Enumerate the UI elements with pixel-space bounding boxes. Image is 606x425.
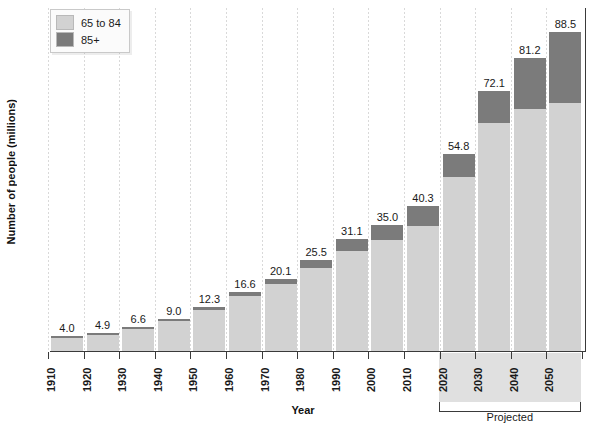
bar-value-label: 40.3 [412, 192, 433, 204]
bar-value-label: 12.3 [199, 293, 220, 305]
x-axis-tick [404, 352, 405, 359]
legend-label: 85+ [81, 34, 100, 46]
x-axis-label-text: 2010 [401, 360, 413, 400]
x-axis-label-text: 2050 [543, 360, 555, 400]
bar-segment-65-to-84 [407, 226, 439, 352]
bar-segment-85-plus [336, 239, 368, 250]
x-axis-tick [155, 352, 156, 359]
bar-value-label: 35.0 [377, 211, 398, 223]
x-axis-label-text: 1920 [81, 360, 93, 400]
gridline [546, 8, 547, 352]
bar-segment-85-plus [371, 225, 403, 240]
bar-group[interactable]: 35.0 [371, 225, 403, 352]
bar-group[interactable]: 81.2 [514, 58, 546, 352]
x-axis-tick [48, 352, 49, 359]
x-axis-label-text: 1940 [152, 360, 164, 400]
bar-segment-65-to-84 [122, 329, 154, 352]
bar-value-label: 25.5 [305, 246, 326, 258]
bar-value-label: 20.1 [270, 265, 291, 277]
bar-segment-65-to-84 [51, 338, 83, 352]
x-axis-tick [262, 352, 263, 359]
gridline [404, 8, 405, 352]
x-axis-tick [226, 352, 227, 359]
legend-item[interactable]: 65 to 84 [56, 14, 121, 31]
bar-value-label: 31.1 [341, 225, 362, 237]
x-axis-tick [190, 352, 191, 359]
x-axis-label-text: 1930 [116, 360, 128, 400]
bar-segment-65-to-84 [87, 335, 119, 352]
gridline [475, 8, 476, 352]
x-axis-label-text: 2020 [437, 360, 449, 400]
bar-group[interactable]: 25.5 [300, 260, 332, 352]
gridline [226, 8, 227, 352]
x-axis-label-text: 1960 [223, 360, 235, 400]
bar-group[interactable]: 20.1 [265, 279, 297, 352]
gridline [297, 8, 298, 352]
y-axis-title-text: Number of people (millions) [5, 99, 17, 244]
bar-value-label: 4.0 [59, 322, 74, 334]
bar-segment-65-to-84 [300, 268, 332, 352]
x-axis-tick [546, 352, 547, 359]
bar-group[interactable]: 40.3 [407, 206, 439, 352]
bar-segment-65-to-84 [265, 284, 297, 352]
gridline [155, 8, 156, 352]
x-axis-label-text: 2040 [508, 360, 520, 400]
bar-segment-65-to-84 [158, 321, 190, 352]
bar-value-label: 9.0 [166, 305, 181, 317]
bar-group[interactable]: 9.0 [158, 319, 190, 352]
bar-group[interactable]: 54.8 [443, 154, 475, 352]
x-axis-tick [440, 352, 441, 359]
bar-segment-85-plus [443, 154, 475, 177]
bar-group[interactable]: 72.1 [478, 91, 510, 352]
bar-segment-65-to-84 [549, 103, 581, 352]
gridline [84, 8, 85, 352]
x-axis-label-text: 1910 [45, 360, 57, 400]
bar-segment-65-to-84 [336, 251, 368, 352]
gridline [262, 8, 263, 352]
bar-segment-85-plus [478, 91, 510, 123]
x-axis-tick [119, 352, 120, 359]
bar-group[interactable]: 12.3 [193, 307, 225, 352]
bar-group[interactable]: 88.5 [549, 32, 581, 352]
x-axis-tick [368, 352, 369, 359]
gridline [48, 8, 49, 352]
x-axis-label-2050: 2050 [543, 360, 587, 400]
gridline [333, 8, 334, 352]
x-axis-label-text: 1990 [330, 360, 342, 400]
bar-group[interactable]: 4.9 [87, 333, 119, 352]
gridline [368, 8, 369, 352]
legend: 65 to 8485+ [50, 9, 130, 53]
bar-value-label: 4.9 [95, 319, 110, 331]
bar-value-label: 81.2 [519, 44, 540, 56]
bar-segment-65-to-84 [371, 240, 403, 352]
x-axis-tick [475, 352, 476, 359]
x-axis-title: Year [0, 404, 606, 416]
bar-value-label: 6.6 [131, 313, 146, 325]
bar-segment-65-to-84 [229, 296, 261, 352]
plot-area: 4.04.96.69.012.316.620.125.531.135.040.3… [50, 8, 585, 352]
x-axis-label-text: 2000 [365, 360, 377, 400]
bar-segment-65-to-84 [478, 123, 510, 352]
x-axis-tick [511, 352, 512, 359]
bar-chart: Number of people (millions) 4.04.96.69.0… [0, 0, 606, 425]
bar-segment-65-to-84 [514, 109, 546, 352]
bar-group[interactable]: 31.1 [336, 239, 368, 352]
legend-item[interactable]: 85+ [56, 31, 121, 48]
bar-group[interactable]: 16.6 [229, 292, 261, 352]
x-axis-tick [333, 352, 334, 359]
x-axis-label-text: 2030 [472, 360, 484, 400]
bar-value-label: 72.1 [483, 77, 504, 89]
bar-segment-85-plus [549, 32, 581, 104]
x-axis-line [50, 351, 586, 352]
gridline [440, 8, 441, 352]
bar-segment-85-plus [514, 58, 546, 109]
x-axis-tick [582, 352, 583, 359]
bar-segment-65-to-84 [443, 177, 475, 352]
legend-swatch [56, 32, 74, 47]
bar-value-label: 54.8 [448, 140, 469, 152]
x-axis-tick [297, 352, 298, 359]
bar-value-label: 16.6 [234, 278, 255, 290]
bar-group[interactable]: 4.0 [51, 336, 83, 352]
bar-group[interactable]: 6.6 [122, 327, 154, 352]
legend-swatch [56, 15, 74, 30]
